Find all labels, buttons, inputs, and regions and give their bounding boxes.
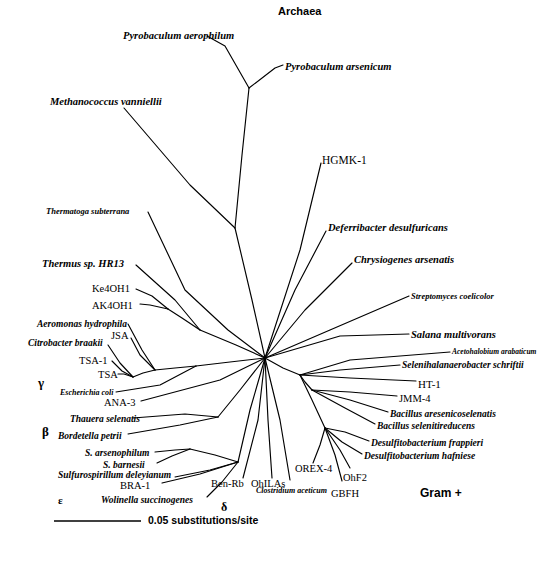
- b-pyro-stem: [235, 88, 249, 228]
- taxon-label-desulfitobacterium-hafniese: Desulfitobacterium hafniese: [364, 452, 475, 462]
- b-gamma2: [133, 370, 155, 377]
- taxon-label-thermus-sp-hr13: Thermus sp. HR13: [42, 259, 124, 270]
- b-sulfuro: [175, 462, 238, 477]
- taxon-label-orex-4: OREX-4: [295, 464, 332, 475]
- group-label-gamma: γ: [38, 376, 44, 389]
- b-pyro-aero: [207, 36, 249, 88]
- taxon-label-tsa: TSA: [98, 370, 118, 381]
- group-label-delta: δ: [221, 501, 227, 513]
- taxon-label-desulfitobacterium-frappieri: Desulfitobacterium frappieri: [371, 439, 483, 449]
- scale-bar-label: 0.05 substitutions/site: [148, 515, 258, 526]
- taxon-label-tsa-1: TSA-1: [79, 356, 108, 367]
- taxon-label-gbfh: GBFH: [331, 489, 359, 500]
- taxon-label-escherichia-coli: Escherichia coli: [60, 389, 114, 397]
- b-desulf-frap: [325, 428, 369, 441]
- group-label-beta: β: [42, 425, 49, 438]
- taxon-label-jmm-4: JMM-4: [399, 394, 431, 405]
- b-benrb: [243, 358, 265, 478]
- taxon-label-ak4oh1: AK4OH1: [92, 301, 133, 312]
- taxon-label-thermatoga-subterrana: Thermatoga subterrana: [46, 207, 129, 216]
- taxon-label-bacillus-aresenicoselenatis: Bacillus aresenicoselenatis: [390, 410, 496, 420]
- b-orex4: [313, 428, 325, 463]
- taxon-label-ben-rb: Ben-Rb: [211, 479, 244, 490]
- b-beta-stem: [218, 358, 265, 417]
- group-label-gram-plus: Gram +: [420, 487, 462, 499]
- b-chrysio: [265, 263, 352, 358]
- b-hgmk: [265, 163, 321, 358]
- b-strepto: [265, 296, 409, 358]
- b-eps-node: [190, 449, 238, 462]
- taxon-label-salana-multivorans: Salana multivorans: [411, 330, 496, 341]
- b-thauera: [133, 414, 218, 418]
- taxon-label-chrysiogenes-arsenatis: Chrysiogenes arsenatis: [354, 255, 454, 266]
- taxon-label-pyrobaculum-arsenicum: Pyrobaculum arsenicum: [285, 62, 391, 73]
- b-clostridium: [265, 358, 290, 480]
- taxon-label-s-arsenophilum: S. arsenophilum: [85, 449, 149, 459]
- b-thermatoga: [148, 212, 265, 358]
- b-thermus: [136, 265, 200, 330]
- taxon-label-clostridium-aceticum: Clostridium aceticum: [256, 487, 327, 495]
- b-methano: [124, 108, 235, 228]
- b-pyro-arse: [249, 65, 283, 88]
- b-bordetella: [128, 417, 218, 434]
- b-thermus-node: [200, 330, 265, 358]
- b-ana3: [141, 358, 265, 401]
- taxon-label-ana-3: ANA-3: [104, 398, 136, 409]
- taxon-label-sulfurospirillum-deleyianum: Sulfurospirillum deleyianum: [58, 471, 171, 481]
- taxon-label-ht-1: HT-1: [418, 379, 441, 390]
- phylogenetic-tree-figure: Pyrobaculum aerophilumPyrobaculum arseni…: [0, 0, 559, 568]
- taxon-label-ke4oh1: Ke4OH1: [92, 284, 130, 295]
- taxon-label-bra-1: BRA-1: [120, 481, 150, 492]
- b-gamma-stem: [196, 358, 265, 366]
- taxon-label-deferribacter-desulfuricans: Deferribacter desulfuricans: [328, 223, 448, 234]
- taxon-label-pyrobaculum-aerophilum: Pyrobaculum aerophilum: [123, 31, 234, 42]
- taxon-label-wolinella-succinogenes: Wolinella succinogenes: [101, 496, 193, 506]
- b-delta2: [265, 358, 272, 478]
- taxon-label-citrobacter-braakii: Citrobacter braakii: [28, 339, 103, 349]
- b-ht1: [300, 375, 416, 381]
- b-deferri: [265, 231, 326, 358]
- group-label-archaea: Archaea: [278, 6, 321, 17]
- taxon-label-ohf2: OhF2: [343, 473, 367, 484]
- taxon-label-bacillus-selenitireducens: Bacillus selenitireducens: [377, 422, 475, 432]
- group-label-epsilon: ε: [58, 495, 63, 506]
- taxon-label-aeromonas-hydrophila: Aeromonas hydrophila: [37, 320, 127, 330]
- taxon-label-methanococcus-vanniellii: Methanococcus vanniellii: [50, 97, 162, 108]
- taxon-label-thauera-selenatis: Thauera selenatis: [70, 415, 140, 425]
- b-ohf2: [325, 428, 350, 468]
- taxon-label-hgmk-1: HGMK-1: [322, 155, 367, 167]
- taxon-label-streptomyces-coelicolor: Streptomyces coelicolor: [411, 292, 494, 301]
- b-gram3: [300, 375, 325, 428]
- b-aeromonas: [128, 324, 155, 370]
- b-bac-arse: [312, 390, 388, 412]
- taxon-label-jsa: JSA: [111, 331, 129, 342]
- taxon-label-selenihalanaerobacter-schriftii: Selenihalanaerobacter schriftii: [402, 361, 524, 371]
- b-ke4oh1-node: [168, 309, 200, 330]
- b-ak4oh1: [140, 304, 168, 309]
- b-gram-stem: [265, 358, 300, 375]
- taxon-label-bordetella-petrii: Bordetella petrii: [58, 432, 122, 442]
- b-salana: [265, 334, 409, 358]
- b-bac-sel: [312, 390, 375, 424]
- taxon-label-acetohalobium-arabaticum: Acetohalobium arabaticum: [452, 348, 536, 356]
